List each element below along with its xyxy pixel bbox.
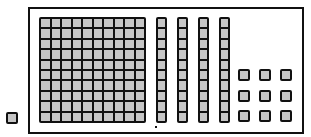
flat-cell bbox=[94, 71, 103, 79]
rod-cell bbox=[221, 113, 228, 121]
flat-cell bbox=[62, 113, 71, 121]
flat-cell bbox=[125, 113, 134, 121]
flat-cell bbox=[41, 71, 50, 79]
flat-cell bbox=[73, 113, 82, 121]
flat-cell bbox=[62, 61, 71, 69]
flat-cell bbox=[136, 71, 145, 79]
flat-cell bbox=[83, 29, 92, 37]
flat-cell bbox=[104, 40, 113, 48]
flat-cell bbox=[41, 81, 50, 89]
flat-cell bbox=[115, 29, 124, 37]
rod-cell bbox=[200, 40, 207, 48]
unit-cube bbox=[259, 110, 271, 122]
rod-cell bbox=[158, 19, 165, 27]
flat-cell bbox=[41, 50, 50, 58]
flat-cell bbox=[94, 81, 103, 89]
flat-cell bbox=[83, 61, 92, 69]
flat-cell bbox=[73, 102, 82, 110]
unit-cube-outside bbox=[6, 112, 18, 124]
flat-cell bbox=[136, 92, 145, 100]
flat-cell bbox=[52, 40, 61, 48]
rod-cell bbox=[158, 40, 165, 48]
rod-cell bbox=[179, 61, 186, 69]
flat-cell bbox=[94, 102, 103, 110]
rod-cell bbox=[200, 113, 207, 121]
rod-cell bbox=[200, 71, 207, 79]
rod-cell bbox=[158, 81, 165, 89]
rod-cell bbox=[200, 19, 207, 27]
flat-cell bbox=[41, 19, 50, 27]
unit-cube bbox=[259, 69, 271, 81]
flat-cell bbox=[94, 40, 103, 48]
flat-cell bbox=[62, 29, 71, 37]
flat-cell bbox=[83, 71, 92, 79]
flat-cell bbox=[73, 29, 82, 37]
tens-rod bbox=[156, 17, 167, 123]
hundreds-flat bbox=[39, 17, 146, 123]
flat-cell bbox=[104, 102, 113, 110]
rod-cell bbox=[179, 40, 186, 48]
rod-cell bbox=[200, 81, 207, 89]
rod-cell bbox=[179, 81, 186, 89]
flat-cell bbox=[104, 81, 113, 89]
flat-cell bbox=[104, 113, 113, 121]
flat-cell bbox=[125, 40, 134, 48]
flat-cell bbox=[104, 29, 113, 37]
rod-cell bbox=[200, 61, 207, 69]
flat-cell bbox=[41, 61, 50, 69]
unit-cube bbox=[280, 110, 292, 122]
flat-cell bbox=[52, 113, 61, 121]
flat-cell bbox=[41, 92, 50, 100]
flat-cell bbox=[62, 40, 71, 48]
flat-cell bbox=[62, 19, 71, 27]
rod-cell bbox=[200, 29, 207, 37]
rod-cell bbox=[158, 92, 165, 100]
flat-cell bbox=[104, 71, 113, 79]
flat-cell bbox=[136, 19, 145, 27]
rod-cell bbox=[158, 61, 165, 69]
rod-cell bbox=[221, 81, 228, 89]
rod-cell bbox=[179, 19, 186, 27]
flat-cell bbox=[83, 113, 92, 121]
flat-cell bbox=[62, 71, 71, 79]
flat-cell bbox=[125, 19, 134, 27]
unit-cube bbox=[280, 69, 292, 81]
flat-cell bbox=[115, 40, 124, 48]
flat-cell bbox=[115, 19, 124, 27]
flat-cell bbox=[73, 19, 82, 27]
flat-cell bbox=[83, 50, 92, 58]
tens-rod bbox=[219, 17, 230, 123]
flat-cell bbox=[125, 92, 134, 100]
flat-cell bbox=[104, 92, 113, 100]
tens-rod bbox=[198, 17, 209, 123]
flat-cell bbox=[83, 81, 92, 89]
flat-cell bbox=[41, 40, 50, 48]
rod-cell bbox=[179, 29, 186, 37]
flat-cell bbox=[52, 50, 61, 58]
rod-cell bbox=[200, 92, 207, 100]
flat-cell bbox=[73, 50, 82, 58]
rod-cell bbox=[221, 50, 228, 58]
flat-cell bbox=[104, 19, 113, 27]
flat-cell bbox=[52, 71, 61, 79]
flat-cell bbox=[52, 102, 61, 110]
rod-cell bbox=[221, 29, 228, 37]
flat-cell bbox=[94, 29, 103, 37]
rod-cell bbox=[179, 113, 186, 121]
flat-cell bbox=[136, 113, 145, 121]
flat-cell bbox=[83, 92, 92, 100]
flat-cell bbox=[136, 40, 145, 48]
rod-cell bbox=[200, 102, 207, 110]
flat-cell bbox=[83, 102, 92, 110]
rod-cell bbox=[221, 102, 228, 110]
flat-cell bbox=[62, 81, 71, 89]
flat-cell bbox=[83, 40, 92, 48]
flat-cell bbox=[125, 29, 134, 37]
flat-cell bbox=[62, 92, 71, 100]
flat-cell bbox=[52, 92, 61, 100]
flat-cell bbox=[115, 113, 124, 121]
rod-cell bbox=[179, 71, 186, 79]
flat-cell bbox=[125, 71, 134, 79]
flat-cell bbox=[115, 102, 124, 110]
flat-cell bbox=[52, 61, 61, 69]
